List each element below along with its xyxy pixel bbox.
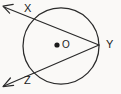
- ray-z-to-y: [4, 45, 99, 86]
- geometry-canvas: X O Y Z: [0, 0, 121, 94]
- ray-x-to-y: [4, 7, 99, 45]
- point-label-x: X: [24, 2, 32, 14]
- center-label-o: O: [62, 39, 70, 50]
- center-point-dot: [54, 42, 59, 47]
- point-label-z: Z: [24, 74, 31, 86]
- point-label-y: Y: [106, 38, 114, 50]
- circle-geometry-figure: X O Y Z: [0, 0, 121, 94]
